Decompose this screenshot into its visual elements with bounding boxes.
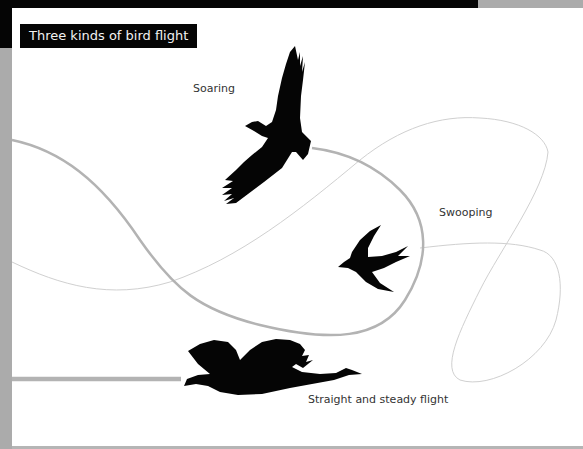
- swallow-silhouette-icon: [338, 225, 410, 292]
- label-soaring: Soaring: [193, 82, 235, 95]
- label-straight-steady: Straight and steady flight: [308, 393, 448, 406]
- diagram-title: Three kinds of bird flight: [20, 24, 197, 48]
- label-swooping: Swooping: [439, 206, 492, 219]
- flight-diagram: [0, 0, 583, 449]
- goose-silhouette-icon: [184, 339, 362, 395]
- eagle-silhouette-icon: [222, 46, 311, 204]
- thick-flight-path: [12, 140, 423, 335]
